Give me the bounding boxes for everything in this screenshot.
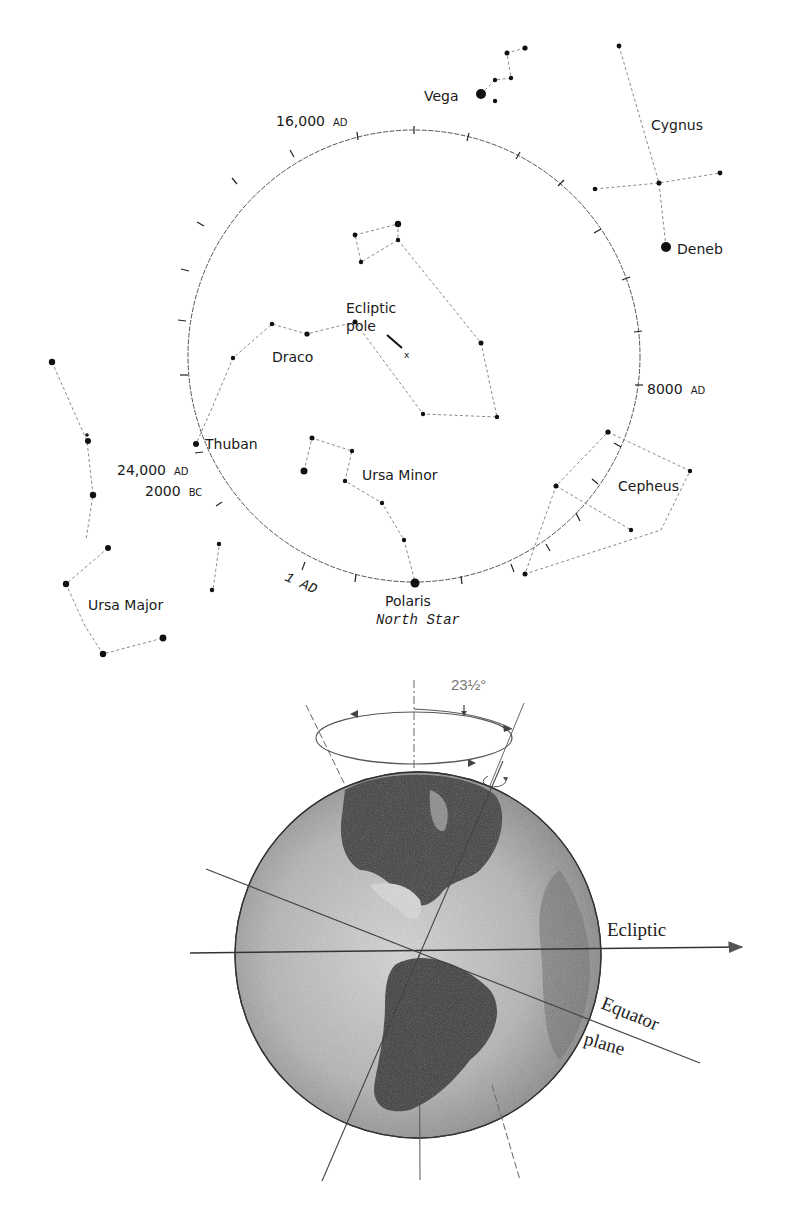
label-16000-ad: 16,000AD	[276, 113, 348, 129]
star-vega	[476, 89, 486, 99]
label-24000-ad: 24,000AD	[117, 462, 189, 478]
circle-ticks	[178, 126, 643, 584]
tilt-angle-label: 23½°	[451, 676, 486, 693]
label-north-star: North Star	[376, 612, 460, 628]
label-draco: Draco	[272, 349, 313, 365]
label-deneb: Deneb	[677, 241, 723, 257]
label-ursa-minor: Ursa Minor	[362, 467, 438, 483]
label-1-ad: 1 AD	[282, 569, 320, 598]
label-ecliptic: Ecliptic	[346, 300, 396, 316]
label-vega: Vega	[424, 88, 459, 104]
ecliptic-pole-marker: x	[387, 335, 410, 360]
star-polaris	[411, 579, 420, 588]
label-polaris: Polaris	[385, 593, 431, 609]
label-thuban: Thuban	[204, 436, 258, 452]
svg-text:x: x	[404, 350, 410, 360]
star-deneb	[661, 242, 671, 252]
label-8000-ad: 8000AD	[647, 381, 705, 397]
precession-circle	[178, 126, 643, 584]
label-ecliptic-line: Ecliptic	[607, 919, 666, 940]
label-equator: Equator	[599, 992, 663, 1034]
precession-diagram: x 16,000AD Vega Cygnus Deneb Ecliptic po…	[0, 0, 787, 1221]
constellation-lines	[52, 46, 720, 654]
label-2000-bc: 2000BC	[145, 483, 202, 499]
label-ursa-major: Ursa Major	[88, 597, 163, 613]
star-thuban	[193, 441, 199, 447]
stars	[49, 44, 723, 658]
label-cygnus: Cygnus	[651, 117, 703, 133]
label-cepheus: Cepheus	[618, 478, 679, 494]
label-pole: pole	[346, 318, 376, 334]
globe-diagram: 23½° Ecliptic Equator plane	[190, 676, 742, 1181]
